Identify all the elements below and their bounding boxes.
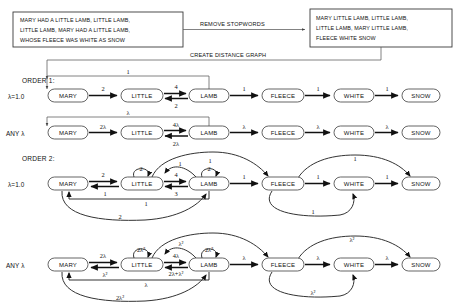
- weight-o1a-white-snow: λ: [385, 123, 389, 130]
- weight-o1a-mary-little: 2λ: [100, 123, 107, 130]
- node-label-mary: MARY: [59, 130, 77, 136]
- edge-o1-lamb-mary: [47, 76, 209, 90]
- weight-o1-lamb-little: 2: [174, 102, 177, 109]
- weight-o2a-mary-little: 2λ: [100, 252, 107, 259]
- weight-o2-lamb-fleece: 1: [242, 173, 245, 180]
- weight-o2a-lamb-fleece: λ: [242, 254, 246, 261]
- node-label-fleece: FLEECE: [271, 130, 296, 136]
- weight-o1a-lamb-mary: λ: [126, 109, 130, 116]
- weight-o2a-little-mary: λ²: [102, 271, 107, 278]
- weight-o2a-lamb-mary: λ: [144, 281, 148, 288]
- node-label-snow: SNOW: [411, 181, 431, 187]
- filtered-text-line-2: LITTLE LAMB, MARY LITTLE LAMB,: [316, 25, 408, 31]
- node-label-little: LITTLE: [132, 262, 153, 268]
- weight-o2-mary-little: 2: [101, 171, 104, 178]
- weight-o2-fleece-snow: 1: [353, 155, 356, 162]
- graph-order2-lambda1: MARY LITTLE LAMB FLEECE WHITE SNOW 2 1 4…: [48, 171, 440, 197]
- original-text-line-3: WHOSE FLEECE WAS WHITE AS SNOW: [20, 37, 126, 43]
- node-label-lamb: LAMB: [200, 262, 217, 268]
- node-label-white: WHITE: [344, 262, 364, 268]
- weight-o1-fleece-white: 1: [316, 85, 319, 92]
- weight-o2-lamb-mary: 1: [144, 200, 147, 207]
- weight-o1-lamb-mary: 1: [126, 68, 129, 75]
- node-label-lamb: LAMB: [200, 93, 217, 99]
- node-label-snow: SNOW: [411, 93, 431, 99]
- row-label-order2-anylambda: ANY λ: [6, 262, 25, 269]
- row-label-order1-lambda1: λ=1.0: [8, 93, 25, 100]
- section-label-order1: ORDER 1:: [22, 77, 55, 84]
- edge-o2-lamb-little-arc: [165, 167, 196, 177]
- node-label-fleece: FLEECE: [271, 93, 296, 99]
- weight-o2-fleece-lamb: 1: [311, 208, 314, 215]
- edge-o2a-mary-lamb: [62, 272, 206, 301]
- node-label-lamb: LAMB: [200, 181, 217, 187]
- node-label-white: WHITE: [344, 93, 364, 99]
- node-label-mary: MARY: [59, 262, 77, 268]
- edge-o2a-lamb-mary: [69, 272, 209, 280]
- weight-o2a-little-self: 2λ²: [137, 246, 145, 253]
- edge-o1a-lamb-mary: [47, 117, 209, 127]
- node-label-mary: MARY: [59, 93, 77, 99]
- weight-o2-lamb-little: 3: [174, 190, 177, 197]
- remove-stopwords-label: REMOVE STOPWORDS: [200, 21, 265, 27]
- weight-o2a-mary-lamb: 2λ²: [116, 294, 124, 301]
- weight-o2a-fleece-snow: λ²: [349, 236, 354, 243]
- weight-o1a-fleece-white: λ: [316, 123, 320, 130]
- row-label-order1-anylambda: ANY λ: [6, 130, 25, 137]
- weight-o2-little-mary: 1: [103, 190, 106, 197]
- weight-o2a-lamb-little: 2λ+λ²: [169, 270, 184, 277]
- weight-o1-mary-little: 2: [101, 85, 104, 92]
- weight-o2-mary-lamb: 2: [118, 213, 121, 220]
- graph-order2-anylambda: MARY LITTLE LAMB FLEECE WHITE SNOW 2λ λ²…: [48, 252, 440, 278]
- node-label-snow: SNOW: [411, 262, 431, 268]
- node-label-fleece: FLEECE: [271, 181, 296, 187]
- weight-o1a-lamb-fleece: λ: [242, 123, 246, 130]
- graph-svg: MARY HAD A LITTLE LAMB, LITTLE LAMB, LIT…: [0, 0, 461, 306]
- weight-o1-lamb-fleece: 1: [242, 85, 245, 92]
- filtered-text-line-1: MARY LITTLE LAMB, LITTLE LAMB,: [316, 15, 408, 21]
- node-label-snow: SNOW: [411, 130, 431, 136]
- node-label-little: LITTLE: [132, 130, 153, 136]
- graph-order1-anylambda: MARY LITTLE LAMB FLEECE WHITE SNOW 2λ 4λ…: [48, 121, 440, 147]
- create-distance-graph-label: CREATE DISTANCE GRAPH: [190, 52, 266, 58]
- weight-o2-lamb-self: 2: [207, 165, 210, 172]
- node-label-little: LITTLE: [132, 181, 153, 187]
- section-label-order2: ORDER 2:: [22, 155, 55, 162]
- original-text-line-1: MARY HAD A LITTLE LAMB, LITTLE LAMB,: [20, 17, 130, 23]
- weight-o2a-white-snow: λ: [385, 254, 389, 261]
- edge-o2-mary-lamb: [62, 191, 206, 220]
- node-label-fleece: FLEECE: [271, 262, 296, 268]
- original-text-line-2: LITTLE LAMB, MARY HAD A LITTLE LAMB,: [20, 27, 130, 33]
- weight-o2-little-fleece: 1: [208, 157, 211, 164]
- weight-o2-little-lamb: 4: [174, 171, 178, 178]
- row-label-order2-lambda1: λ=1.0: [8, 181, 25, 188]
- diagram-canvas: MARY HAD A LITTLE LAMB, LITTLE LAMB, LIT…: [0, 0, 461, 306]
- weight-o1a-lamb-little: 2λ: [173, 140, 180, 147]
- node-label-white: WHITE: [344, 130, 364, 136]
- weight-o2a-fleece-lamb: λ²: [310, 289, 315, 296]
- weight-o2-lamb-little-arc: 1: [178, 160, 181, 167]
- node-label-little: LITTLE: [132, 93, 153, 99]
- weight-o2a-lamb-little-arc: λ²: [178, 240, 183, 247]
- weight-o2a-little-lamb: 4λ: [173, 252, 180, 259]
- filtered-text-line-3: FLEECE WHITE SNOW: [316, 35, 377, 41]
- node-label-white: WHITE: [344, 181, 364, 187]
- weight-o2a-lamb-self: 2λ²: [205, 246, 213, 253]
- graph-order1-lambda1: MARY LITTLE LAMB FLEECE WHITE SNOW 2 4 2…: [48, 83, 440, 109]
- edge-o2-lamb-mary: [69, 191, 209, 199]
- weight-o2-fleece-white: 1: [316, 173, 319, 180]
- weight-o1-little-lamb: 4: [174, 83, 178, 90]
- weight-o2a-fleece-white: λ: [316, 254, 320, 261]
- weight-o1a-little-lamb: 4λ: [173, 121, 180, 128]
- weight-o2-little-self: 2: [139, 165, 142, 172]
- node-label-lamb: LAMB: [200, 130, 217, 136]
- weight-o1-white-snow: 1: [385, 85, 388, 92]
- node-label-mary: MARY: [59, 181, 77, 187]
- edge-o2a-lamb-little-arc: [165, 248, 196, 258]
- weight-o2-white-snow: 1: [385, 173, 388, 180]
